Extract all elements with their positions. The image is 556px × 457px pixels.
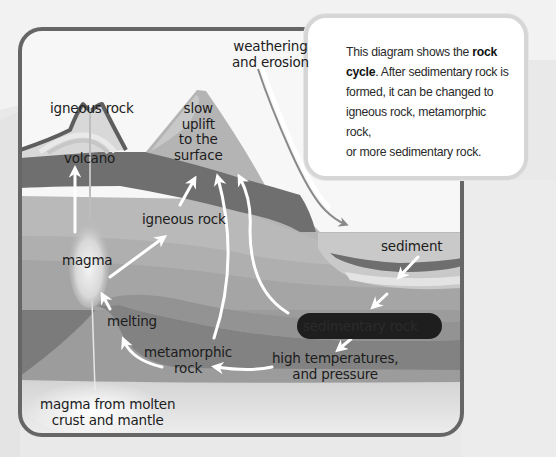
label-igneous-top: igneous rock — [50, 100, 134, 116]
label-melting: melting — [107, 313, 157, 329]
label-metamorphic: metamorphic rock — [144, 344, 232, 376]
label-weathering-line2: and erosion — [232, 54, 309, 70]
callout-line1: This diagram shows the — [346, 44, 472, 59]
label-magma-source: magma from molten crust and mantle — [40, 396, 175, 428]
callout-term-rock: rock — [472, 44, 497, 59]
label-slow-line1: slow — [174, 101, 223, 117]
label-magma: magma — [62, 252, 112, 268]
label-slow-uplift: slow uplift to the surface — [174, 101, 223, 163]
callout-text: This diagram shows the rock cycle. After… — [346, 42, 512, 162]
label-volcano: volcano — [64, 150, 115, 166]
label-metamorphic-line1: metamorphic — [144, 344, 232, 360]
label-igneous-mid: igneous rock — [142, 211, 226, 227]
callout-term-cycle: cycle — [346, 64, 375, 79]
label-slow-line2: uplift — [174, 117, 223, 133]
label-slow-line4: surface — [174, 148, 223, 164]
label-high-temp-line2: and pressure — [272, 366, 398, 382]
label-magma-source-line2: crust and mantle — [40, 412, 175, 428]
label-high-temp-line1: high temperatures, — [272, 350, 398, 366]
label-weathering-line1: weathering — [232, 38, 309, 54]
label-magma-source-line1: magma from molten — [40, 396, 175, 412]
callout-line2: . After sedimentary rock is — [375, 64, 508, 79]
label-metamorphic-line2: rock — [144, 360, 232, 376]
callout-line4: igneous rock, metamorphic rock, — [346, 104, 486, 139]
callout-box: This diagram shows the rock cycle. After… — [304, 14, 528, 180]
label-sedimentary-rock: sedimentary rock — [303, 318, 418, 334]
callout-line3: formed, it can be changed to — [346, 84, 493, 99]
label-sediment: sediment — [381, 238, 442, 254]
label-slow-line3: to the — [174, 132, 223, 148]
label-weathering: weathering and erosion — [232, 38, 309, 70]
callout-line5: or more sedimentary rock. — [346, 144, 481, 159]
label-high-temperatures: high temperatures, and pressure — [272, 350, 398, 382]
